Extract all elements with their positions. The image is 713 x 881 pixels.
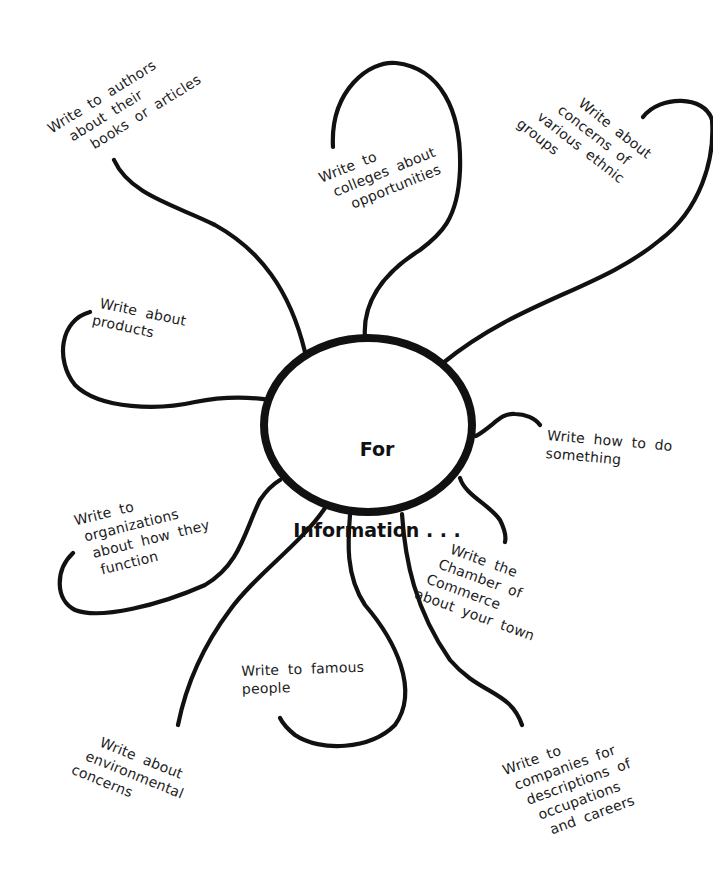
branch-line-how-to (476, 414, 540, 436)
hub-title-line2: Information . . . (270, 517, 470, 544)
branch-label-famous: Write to famous people (241, 658, 365, 698)
hub-title-line1: For (270, 436, 470, 463)
hub-title: For Information . . . (270, 382, 470, 571)
